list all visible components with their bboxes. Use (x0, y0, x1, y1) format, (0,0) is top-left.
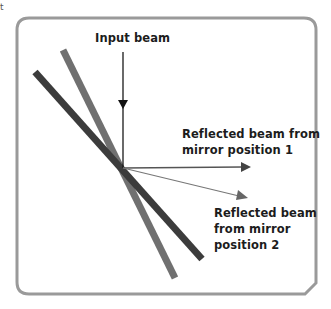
reflected-beam-1-label-line-1: Reflected beam from (182, 126, 320, 142)
reflected-beam-2-label: Reflected beam from mirror position 2 (214, 205, 317, 253)
reflected-beam-2-label-line-2: from mirror (214, 221, 317, 237)
reflected-beam-2-arrowhead-icon (236, 190, 248, 200)
reflected-beam-1-label-line-2: mirror position 1 (182, 142, 320, 158)
input-beam-label-text: Input beam (95, 30, 170, 46)
reflected-beam-2-label-line-3: position 2 (214, 237, 317, 253)
reflected-beam-1-line (123, 167, 242, 168)
reflected-beam-1-arrowhead-icon (241, 162, 251, 172)
reflected-beam-1-label: Reflected beam from mirror position 1 (182, 126, 320, 158)
reflected-beam-2-label-line-1: Reflected beam (214, 205, 317, 221)
input-beam-arrowhead-icon (118, 100, 128, 109)
input-beam-label: Input beam (95, 30, 170, 46)
